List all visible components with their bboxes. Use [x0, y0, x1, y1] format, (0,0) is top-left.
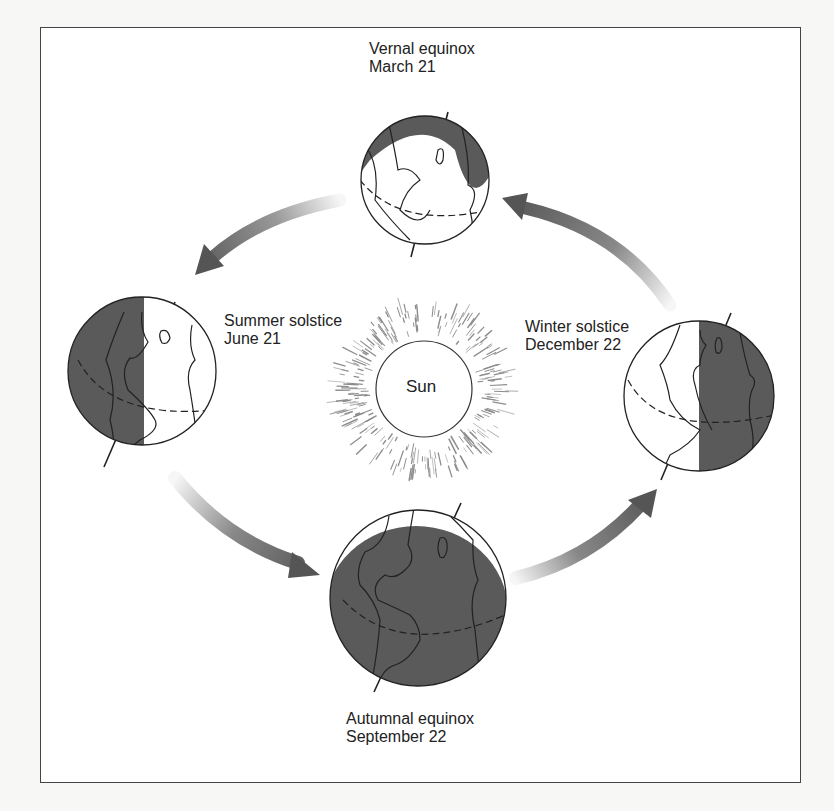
earth-winter-solstice — [624, 313, 779, 480]
seasons-diagram — [0, 0, 834, 811]
sun-label: Sun — [406, 378, 436, 396]
summer-date: June 21 — [224, 330, 342, 348]
earth-vernal-equinox — [355, 110, 490, 257]
winter-name: Winter solstice — [525, 318, 629, 336]
vernal-date: March 21 — [369, 58, 475, 76]
orbit-arrow-vernal-to-summer — [195, 200, 340, 275]
orbit-arrow-winter-to-vernal — [502, 193, 670, 305]
autumnal-date: September 22 — [346, 728, 474, 746]
vernal-name: Vernal equinox — [369, 40, 475, 58]
summer-name: Summer solstice — [224, 312, 342, 330]
label-vernal-equinox: Vernal equinox March 21 — [369, 40, 475, 76]
orbit-arrow-autumnal-to-winter — [516, 489, 657, 578]
label-winter-solstice: Winter solstice December 22 — [525, 318, 629, 354]
autumnal-name: Autumnal equinox — [346, 710, 474, 728]
winter-date: December 22 — [525, 336, 629, 354]
earth-summer-solstice — [60, 290, 216, 470]
earth-autumnal-equinox — [324, 503, 508, 698]
label-summer-solstice: Summer solstice June 21 — [224, 312, 342, 348]
orbit-arrow-summer-to-autumnal — [175, 478, 320, 578]
label-autumnal-equinox: Autumnal equinox September 22 — [346, 710, 474, 746]
